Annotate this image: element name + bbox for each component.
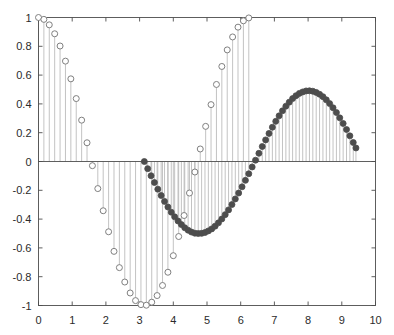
x-tick-label: 2 <box>103 314 109 326</box>
open-data-point <box>52 31 58 37</box>
open-data-point <box>181 213 187 219</box>
x-tick-label: 9 <box>339 314 345 326</box>
open-data-point <box>170 253 176 259</box>
x-tick-label: 8 <box>305 314 311 326</box>
open-data-point <box>235 24 241 30</box>
open-data-point <box>89 163 95 169</box>
open-data-point <box>246 15 252 21</box>
filled-data-point <box>353 145 359 151</box>
filled-data-point <box>249 164 255 170</box>
axis-tick-labels: 012345678910-1-0.8-0.6-0.4-0.200.20.40.6… <box>13 12 382 326</box>
open-data-point <box>203 123 209 129</box>
y-tick-label: -0.4 <box>13 213 32 225</box>
open-data-point <box>100 208 106 214</box>
y-tick-label: -1 <box>22 300 32 312</box>
open-data-point <box>106 229 112 235</box>
x-tick-label: 6 <box>238 314 244 326</box>
open-data-point <box>95 186 101 192</box>
open-data-point <box>186 190 192 196</box>
open-data-point <box>192 169 198 175</box>
figure-container: 012345678910-1-0.8-0.6-0.4-0.200.20.40.6… <box>0 0 394 335</box>
filled-data-point <box>226 207 232 213</box>
filled-data-point <box>151 180 157 186</box>
filled-data-point <box>273 118 279 124</box>
stem-plot-chart: 012345678910-1-0.8-0.6-0.4-0.200.20.40.6… <box>0 0 394 335</box>
open-data-point <box>79 117 85 123</box>
x-tick-label: 0 <box>35 314 41 326</box>
open-data-point <box>116 265 122 271</box>
open-data-point <box>208 102 214 108</box>
filled-data-point <box>350 139 356 145</box>
open-data-point <box>224 47 230 53</box>
y-tick-label: 1 <box>25 12 31 24</box>
open-data-point <box>230 34 236 40</box>
filled-data-point <box>148 173 154 179</box>
y-tick-label: 0.4 <box>16 98 31 110</box>
y-tick-label: -0.8 <box>13 271 32 283</box>
filled-data-point <box>162 198 168 204</box>
x-tick-label: 3 <box>137 314 143 326</box>
open-data-point <box>62 58 68 64</box>
y-tick-label: -0.2 <box>13 184 32 196</box>
open-data-point <box>68 76 74 82</box>
filled-data-point <box>246 171 252 177</box>
open-data-point <box>122 279 128 285</box>
open-data-point <box>154 293 160 299</box>
filled-data-point <box>158 192 164 198</box>
x-tick-label: 7 <box>271 314 277 326</box>
open-data-point <box>176 234 182 240</box>
x-tick-label: 10 <box>369 314 381 326</box>
filled-data-point <box>256 150 262 156</box>
filled-data-point <box>344 127 350 133</box>
filled-data-point <box>347 133 353 139</box>
filled-data-point <box>253 157 259 163</box>
open-data-point <box>127 290 133 296</box>
open-data-point <box>133 298 139 304</box>
open-data-point <box>46 22 52 28</box>
filled-data-point <box>141 159 147 165</box>
y-tick-label: 0.8 <box>16 40 31 52</box>
filled-data-point <box>333 110 339 116</box>
open-data-point <box>213 81 219 87</box>
open-data-point <box>197 146 203 152</box>
y-tick-label: 0.6 <box>16 69 31 81</box>
x-tick-label: 5 <box>204 314 210 326</box>
x-tick-label: 1 <box>69 314 75 326</box>
filled-data-point <box>145 166 151 172</box>
open-data-point <box>165 269 171 275</box>
filled-data-point <box>229 202 235 208</box>
filled-data-point <box>242 177 248 183</box>
open-data-point <box>160 282 166 288</box>
filled-data-point <box>340 120 346 126</box>
open-data-point <box>149 299 155 305</box>
open-data-point <box>73 96 79 102</box>
y-tick-label: -0.6 <box>13 242 32 254</box>
open-data-point <box>84 140 90 146</box>
filled-data-point <box>236 190 242 196</box>
y-tick-label: 0.2 <box>16 127 31 139</box>
filled-data-point <box>337 115 343 121</box>
filled-data-point <box>232 196 238 202</box>
filled-data-point <box>259 144 265 150</box>
filled-data-point <box>239 184 245 190</box>
y-tick-label: 0 <box>25 156 31 168</box>
filled-data-point <box>155 186 161 192</box>
open-data-point <box>111 248 117 254</box>
x-tick-label: 4 <box>170 314 176 326</box>
open-data-point <box>57 43 63 49</box>
filled-data-point <box>266 130 272 136</box>
open-data-point <box>219 63 225 69</box>
open-data-point <box>41 16 47 22</box>
filled-data-point <box>263 137 269 143</box>
filled-data-point <box>269 124 275 130</box>
